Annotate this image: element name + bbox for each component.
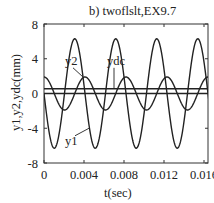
y-tick-label: 0 — [32, 87, 38, 101]
x-tick-label: 0.016 — [190, 168, 214, 182]
x-tick-label: 0.008 — [110, 168, 138, 182]
x-tick-label: 0.004 — [70, 168, 99, 182]
annotations: y2ydcy1 — [65, 54, 126, 148]
label-ydc: ydc — [107, 54, 126, 68]
axis-ticks: 00.0040.0080.0120.016840-4-8 — [28, 18, 214, 183]
label-y2: y2 — [65, 54, 78, 68]
y-tick-label: 4 — [32, 52, 39, 66]
line-chart: 00.0040.0080.0120.016840-4-8 y2ydcy1 — [0, 0, 214, 203]
x-tick-label: 0 — [41, 168, 47, 182]
y-tick-label: -8 — [28, 157, 38, 171]
leader-y1 — [75, 128, 89, 136]
x-tick-label: 0.012 — [150, 168, 178, 182]
y-tick-label: -4 — [28, 122, 39, 136]
y-tick-label: 8 — [32, 18, 38, 32]
